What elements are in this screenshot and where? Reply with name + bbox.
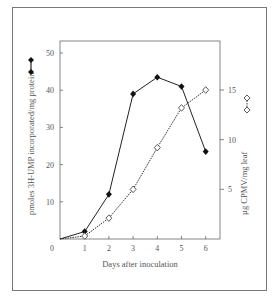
plot-area [60,41,220,239]
x-tick-label: 6 [204,244,208,253]
x-tick-label: 4 [155,244,159,253]
open-diamond-marker-icon [130,186,136,193]
y-left-tick-label: 30 [46,123,54,132]
x-tick-label: 2 [107,244,111,253]
y-right-axis-label: µg CPMV/mg leaf [239,151,249,215]
x-tick-label: 3 [131,244,135,253]
filled-diamond-marker-icon [203,148,209,155]
x-tick-label: 0 [50,244,54,253]
y-right-tick-label: 15 [228,86,236,95]
filled-diamond-marker-icon [106,191,112,198]
y-left-axis-label: pmoles 3H-UMP incorporated/mg protein [26,72,36,215]
open-diamond-marker-icon [203,87,209,94]
chart: 0123456102030405051015Days after inocula… [0,0,276,302]
open-diamond-marker-icon [154,144,160,151]
filled-diamond-marker-icon [130,91,136,98]
y-left-tick-label: 50 [46,49,54,58]
y-left-tick-label: 10 [46,198,54,207]
filled-diamond-marker-icon [154,74,160,81]
y-left-tick-label: 40 [46,86,54,95]
open-diamond-marker-icon [82,233,88,240]
x-tick-label: 5 [180,244,184,253]
x-axis-label: Days after inoculation [102,259,178,269]
legend-filled-diamond-icon [28,57,34,63]
x-tick-label: 1 [83,244,87,253]
y-right-tick-label: 10 [228,136,236,145]
legend-open-diamond-icon [244,95,250,101]
filled-diamond-marker-icon [179,83,185,90]
series-line [60,90,206,239]
y-right-tick-label: 5 [228,185,232,194]
open-diamond-marker-icon [179,105,185,112]
legend-open-diamond-icon [244,107,250,113]
y-left-tick-label: 20 [46,161,54,170]
series-line [60,77,206,239]
